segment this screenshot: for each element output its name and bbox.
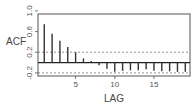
acf-chart: 1.00.60.2-0.2 51015 ACF LAG [0, 0, 193, 107]
x-axis-title: LAG [104, 93, 124, 104]
y-tick-label: -0.2 [25, 65, 34, 79]
plot-frame [38, 14, 190, 76]
plot-area [38, 14, 190, 76]
y-axis: 1.00.60.2-0.2 [25, 5, 38, 80]
y-tick-label: 0.6 [25, 25, 34, 37]
y-axis-title: ACF [6, 36, 26, 47]
x-axis: 51015 [73, 76, 159, 89]
x-tick-label: 15 [150, 80, 159, 89]
x-tick-label: 5 [73, 80, 78, 89]
y-tick-label: 1.0 [25, 5, 34, 17]
x-tick-label: 10 [110, 80, 119, 89]
y-tick-label: 0.2 [25, 46, 34, 58]
